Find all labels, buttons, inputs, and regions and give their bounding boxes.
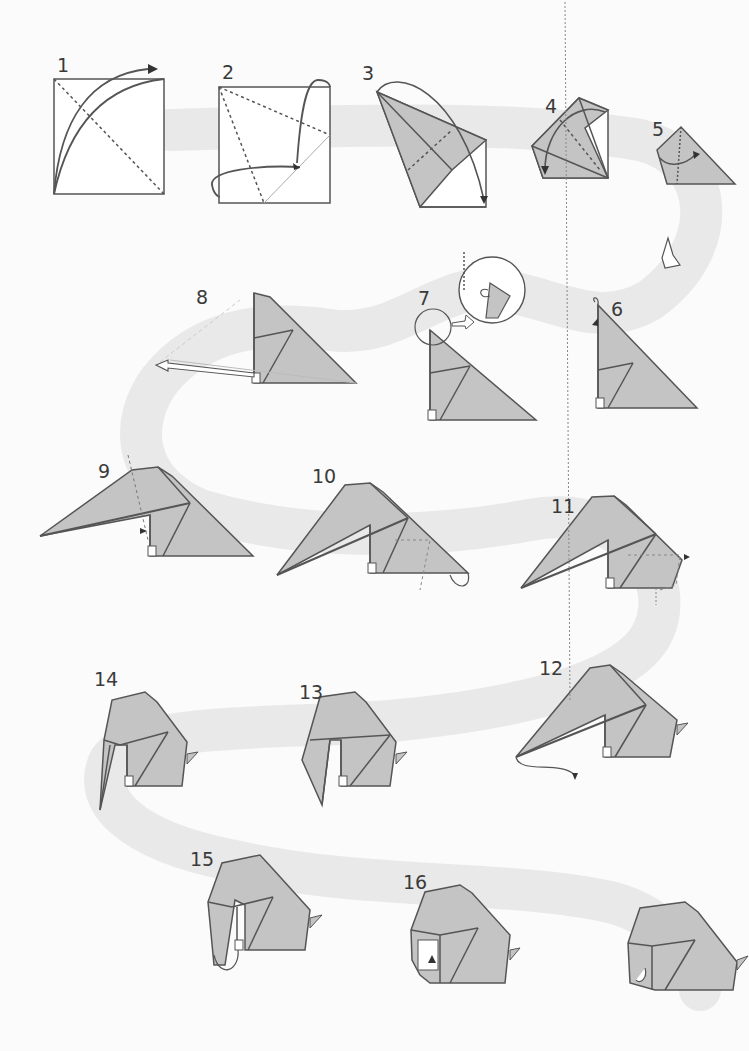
step-5-label: 5	[652, 120, 664, 139]
diagram-canvas	[0, 0, 749, 1051]
step-16-label: 16	[403, 873, 427, 892]
arrowhead-icon	[684, 554, 690, 560]
step-2-label: 2	[222, 63, 234, 82]
step-1-label: 1	[57, 56, 69, 75]
final-elephant-figure	[628, 902, 748, 990]
origami-diagram: 1 2 3 4 5 6 7 8 9 10 11 12 13 14 15 16	[0, 0, 749, 1051]
step-12-label: 12	[539, 659, 563, 678]
step-3-label: 3	[362, 64, 374, 83]
step-7-figure	[415, 252, 536, 420]
arrowhead-icon	[148, 64, 158, 74]
step-13-label: 13	[299, 683, 323, 702]
step-2-figure	[212, 80, 330, 203]
step-8-label: 8	[196, 288, 208, 307]
step-4-label: 4	[545, 97, 557, 116]
step-1-figure	[54, 64, 164, 194]
step-10-label: 10	[312, 467, 336, 486]
step-11-label: 11	[551, 497, 575, 516]
arrowhead-icon	[572, 773, 578, 780]
step-7-label: 7	[418, 289, 430, 308]
step-14-label: 14	[94, 670, 118, 689]
step-9-label: 9	[98, 462, 110, 481]
zoom-arrow-icon	[452, 315, 474, 329]
step-6-label: 6	[611, 300, 623, 319]
step-15-label: 15	[190, 850, 214, 869]
